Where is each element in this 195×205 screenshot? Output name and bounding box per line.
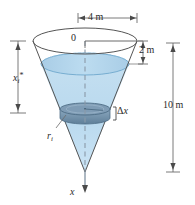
dim-4m-right-arrowhead — [130, 16, 136, 21]
label-axis: x — [70, 187, 74, 197]
dim-10m-bottom-arrowhead — [170, 163, 175, 170]
label-slab-thickness: Δx — [117, 106, 128, 116]
axis-arrowhead — [82, 185, 88, 193]
label-depth-xi-star: xi* — [13, 72, 23, 85]
label-slab-radius: ri — [47, 131, 53, 143]
dimension-4m — [78, 13, 137, 23]
dim-10m-top-arrowhead — [170, 45, 175, 52]
origin-reference-line — [85, 41, 137, 48]
label-top-diameter: 4 m — [88, 12, 103, 22]
radius-subscript: i — [51, 135, 53, 143]
depth-superscript: * — [19, 71, 23, 80]
dim-2m-bottom-arrowhead — [141, 57, 146, 63]
dim-xi-bottom-arrowhead — [15, 104, 20, 111]
dim-xi-top-arrowhead — [15, 43, 20, 50]
cone-tank-figure: 4 m 0 2 m 10 m Δx xi* ri x — [0, 0, 195, 205]
bracket-shape — [113, 107, 116, 120]
delta-x-bracket — [113, 107, 116, 120]
slab-thickness-variable: x — [123, 105, 127, 116]
label-origin: 0 — [71, 33, 76, 43]
label-surface-depth: 2 m — [139, 45, 154, 55]
label-cone-height: 10 m — [163, 100, 183, 110]
dim-4m-left-arrowhead — [79, 16, 85, 21]
